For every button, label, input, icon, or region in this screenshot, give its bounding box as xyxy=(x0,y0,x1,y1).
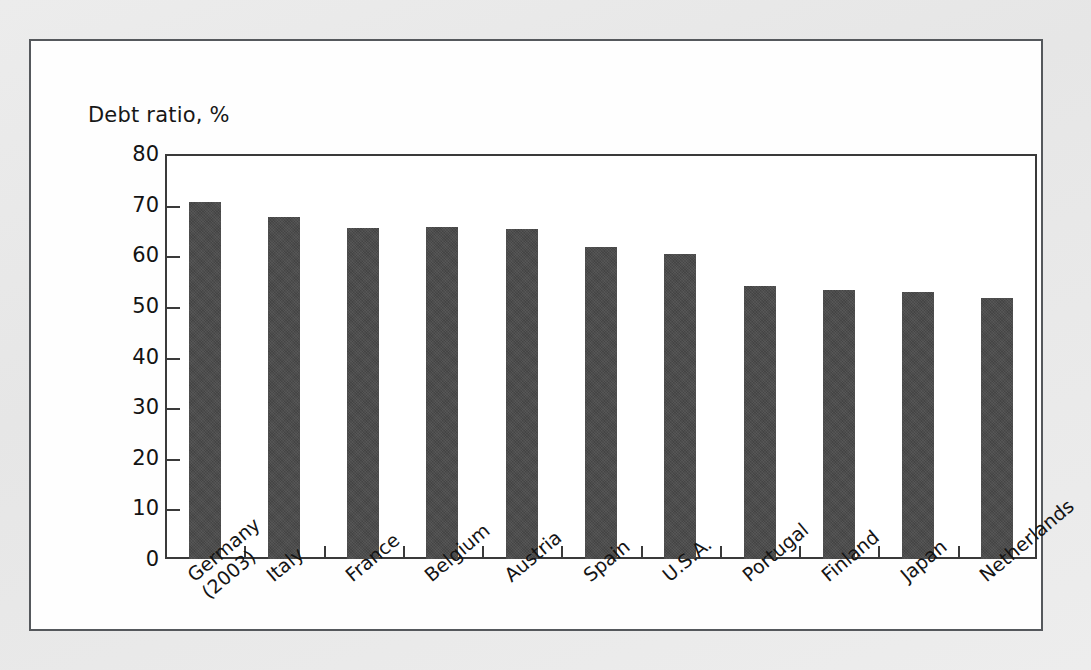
x-tick-mark xyxy=(561,546,563,559)
y-axis-tick-labels: 01020304050607080 xyxy=(93,154,159,559)
x-tick-mark xyxy=(641,546,643,559)
x-tick-mark xyxy=(958,546,960,559)
y-tick-label: 50 xyxy=(103,294,159,318)
y-tick-label: 10 xyxy=(103,496,159,520)
bar xyxy=(981,298,1013,559)
bar xyxy=(744,286,776,559)
x-tick-mark xyxy=(403,546,405,559)
figure-card: Debt ratio, % 01020304050607080 Germany(… xyxy=(29,39,1043,631)
x-tick-mark xyxy=(720,546,722,559)
axis-title: Debt ratio, % xyxy=(88,103,230,127)
y-tick-label: 60 xyxy=(103,243,159,267)
y-tick-label: 40 xyxy=(103,345,159,369)
bar xyxy=(585,247,617,559)
bar xyxy=(506,229,538,559)
bar xyxy=(902,292,934,559)
bar xyxy=(426,227,458,559)
x-tick-mark xyxy=(324,546,326,559)
y-tick-label: 70 xyxy=(103,193,159,217)
bars-layer xyxy=(165,154,1037,559)
y-tick-label: 20 xyxy=(103,446,159,470)
bar xyxy=(268,217,300,559)
y-tick-label: 0 xyxy=(103,547,159,571)
x-tick-mark xyxy=(482,546,484,559)
x-tick-mark xyxy=(878,546,880,559)
bar xyxy=(823,290,855,559)
bar xyxy=(189,202,221,559)
page-root: Debt ratio, % 01020304050607080 Germany(… xyxy=(0,0,1091,670)
y-tick-label: 30 xyxy=(103,395,159,419)
bar xyxy=(664,254,696,559)
x-axis-category-labels: Germany(2003)ItalyFranceBelgiumAustriaSp… xyxy=(165,559,1037,670)
x-tick-mark xyxy=(799,546,801,559)
y-tick-label: 80 xyxy=(103,142,159,166)
bar xyxy=(347,228,379,559)
